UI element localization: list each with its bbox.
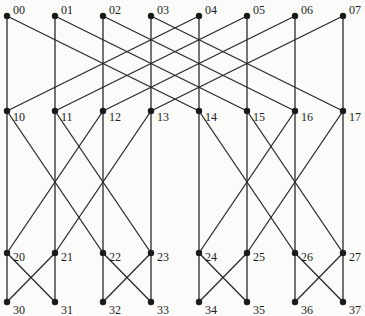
node-label: 12 xyxy=(109,110,121,124)
node-35 xyxy=(244,299,250,305)
node-label: 34 xyxy=(205,303,217,316)
node-label: 31 xyxy=(61,303,73,316)
node-14 xyxy=(196,108,202,114)
node-11 xyxy=(52,108,58,114)
node-00 xyxy=(4,13,10,19)
node-23 xyxy=(148,250,154,256)
node-07 xyxy=(340,13,346,19)
node-36 xyxy=(292,299,298,305)
node-label: 27 xyxy=(349,250,361,264)
node-label: 13 xyxy=(157,110,169,124)
node-label: 20 xyxy=(13,250,25,264)
node-label: 02 xyxy=(109,3,121,17)
node-33 xyxy=(148,299,154,305)
node-label: 25 xyxy=(253,250,265,264)
node-03 xyxy=(148,13,154,19)
node-label: 04 xyxy=(205,3,217,17)
node-25 xyxy=(244,250,250,256)
node-22 xyxy=(100,250,106,256)
node-label: 10 xyxy=(13,110,25,124)
node-10 xyxy=(4,108,10,114)
node-label: 16 xyxy=(301,110,313,124)
node-06 xyxy=(292,13,298,19)
node-label: 32 xyxy=(109,303,121,316)
node-label: 15 xyxy=(253,110,265,124)
node-24 xyxy=(196,250,202,256)
node-05 xyxy=(244,13,250,19)
node-label: 33 xyxy=(157,303,169,316)
node-02 xyxy=(100,13,106,19)
node-label: 14 xyxy=(205,110,217,124)
node-label: 03 xyxy=(157,3,169,17)
node-label: 35 xyxy=(253,303,265,316)
butterfly-network-diagram: 0001020304050607101112131415161720212223… xyxy=(0,0,365,316)
node-label: 00 xyxy=(13,3,25,17)
node-01 xyxy=(52,13,58,19)
node-label: 22 xyxy=(109,250,121,264)
node-21 xyxy=(52,250,58,256)
node-label: 26 xyxy=(301,250,313,264)
node-15 xyxy=(244,108,250,114)
node-26 xyxy=(292,250,298,256)
node-label: 21 xyxy=(61,250,73,264)
node-37 xyxy=(340,299,346,305)
edges-layer xyxy=(7,16,343,302)
node-label: 11 xyxy=(61,110,73,124)
node-20 xyxy=(4,250,10,256)
node-label: 37 xyxy=(349,303,361,316)
node-label: 06 xyxy=(301,3,313,17)
node-label: 24 xyxy=(205,250,217,264)
node-label: 36 xyxy=(301,303,313,316)
node-34 xyxy=(196,299,202,305)
node-30 xyxy=(4,299,10,305)
labels-layer: 0001020304050607101112131415161720212223… xyxy=(13,3,361,316)
node-27 xyxy=(340,250,346,256)
node-31 xyxy=(52,299,58,305)
node-label: 23 xyxy=(157,250,169,264)
node-label: 30 xyxy=(13,303,25,316)
node-04 xyxy=(196,13,202,19)
node-label: 05 xyxy=(253,3,265,17)
node-label: 17 xyxy=(349,110,361,124)
node-12 xyxy=(100,108,106,114)
node-13 xyxy=(148,108,154,114)
node-label: 01 xyxy=(61,3,73,17)
node-17 xyxy=(340,108,346,114)
node-32 xyxy=(100,299,106,305)
node-label: 07 xyxy=(349,3,361,17)
node-16 xyxy=(292,108,298,114)
